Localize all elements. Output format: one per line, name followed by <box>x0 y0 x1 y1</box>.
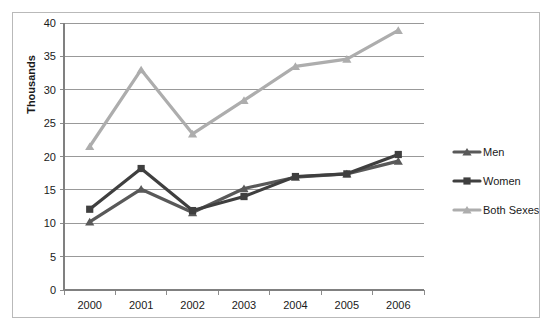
legend-item-women[interactable]: Women <box>454 175 521 187</box>
x-tick-label: 2000 <box>77 299 101 311</box>
legend-item-men[interactable]: Men <box>454 146 504 158</box>
chart-frame: 0510152025303540200020012002200320042005… <box>12 12 540 318</box>
data-point <box>292 173 299 180</box>
x-axis-group: 2000200120022003200420052006 <box>64 290 424 311</box>
y-tick-label: 15 <box>44 184 56 196</box>
data-point <box>189 207 196 214</box>
legend-label: Women <box>483 175 521 187</box>
series-line <box>90 30 399 146</box>
y-tick-label: 35 <box>44 50 56 62</box>
legend: MenWomenBoth Sexes <box>454 146 539 216</box>
legend-marker <box>463 177 470 184</box>
series-line <box>90 154 399 210</box>
x-tick-label: 2002 <box>180 299 204 311</box>
series-women <box>86 151 402 214</box>
data-point <box>86 206 93 213</box>
y-tick-label: 10 <box>44 217 56 229</box>
line-chart: 0510152025303540200020012002200320042005… <box>13 13 539 317</box>
y-axis-title: Thousands <box>25 55 37 114</box>
data-point <box>395 151 402 158</box>
gridlines-group: 0510152025303540 <box>44 17 424 296</box>
series-both-sexes <box>85 26 403 150</box>
legend-item-both-sexes[interactable]: Both Sexes <box>454 204 539 216</box>
legend-label: Both Sexes <box>483 204 539 216</box>
data-point <box>138 165 145 172</box>
x-tick-label: 2003 <box>232 299 256 311</box>
series-men <box>85 157 403 225</box>
data-point <box>137 66 146 74</box>
y-tick-label: 30 <box>44 84 56 96</box>
data-point <box>343 170 350 177</box>
y-tick-label: 20 <box>44 151 56 163</box>
data-point <box>240 193 247 200</box>
y-tick-label: 0 <box>50 284 56 296</box>
x-tick-label: 2004 <box>283 299 307 311</box>
data-point <box>394 26 403 34</box>
y-tick-label: 40 <box>44 17 56 29</box>
y-tick-label: 5 <box>50 251 56 263</box>
x-tick-label: 2005 <box>335 299 359 311</box>
x-tick-label: 2006 <box>386 299 410 311</box>
x-tick-label: 2001 <box>129 299 153 311</box>
y-tick-label: 25 <box>44 117 56 129</box>
legend-label: Men <box>483 146 504 158</box>
